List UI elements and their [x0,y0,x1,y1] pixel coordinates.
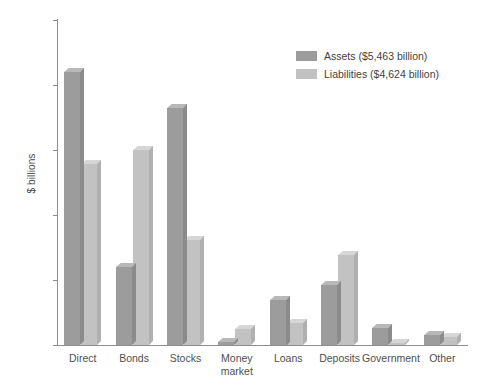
bar-side-face [286,296,290,346]
bar-assets [167,108,183,345]
legend-label-assets: Assets ($5,463 billion) [324,50,427,62]
bar-side-face [97,160,101,345]
bar-assets [424,335,440,345]
legend-item-liabilities: Liabilities ($4,624 billion) [296,65,439,83]
bar-assets [218,342,234,345]
bar-chart: $ billions 05001000150020002500 Assets (… [0,0,477,387]
bar-side-face [354,251,358,345]
y-tick-mark [53,215,58,216]
bar-side-face [183,104,187,345]
bar-side-face [132,263,136,345]
bar-side-face [149,146,153,345]
bar-assets [64,72,80,345]
x-axis-label-8: Other [402,352,477,365]
bar-group [116,20,149,345]
bar-front [270,300,286,346]
bar-side-face [337,281,341,345]
bar-front [372,328,388,345]
bar-side-face [200,236,204,345]
bar-front [64,72,80,345]
bar-front [167,108,183,345]
bar-group [167,20,200,345]
bar-group [64,20,97,345]
bar-front [321,285,337,345]
legend-swatch-liabilities [296,69,317,79]
legend: Assets ($5,463 billion) Liabilities ($4,… [296,47,439,83]
legend-swatch-assets [296,51,317,61]
bar-assets [270,300,286,346]
bar-assets [372,328,388,345]
y-tick-mark [53,345,58,346]
y-tick-mark [53,85,58,86]
bar-group [218,20,251,345]
legend-item-assets: Assets ($5,463 billion) [296,47,439,65]
y-tick-mark [53,20,58,21]
bar-side-face [80,68,84,345]
bar-front [424,335,440,345]
bar-assets [116,267,132,345]
bar-front [389,343,405,345]
legend-label-liabilities: Liabilities ($4,624 billion) [324,68,439,80]
bar-side-face [457,333,461,345]
bar-front [218,342,234,345]
bar-front [116,267,132,345]
bar-assets [321,285,337,345]
bar-side-face [251,325,255,345]
y-tick-mark [53,280,58,281]
bar-side-face [303,319,307,345]
y-axis-label: $ billions [26,129,37,219]
y-tick-mark [53,150,58,151]
bar-liabilities [389,343,405,345]
x-axis-line [57,345,468,346]
